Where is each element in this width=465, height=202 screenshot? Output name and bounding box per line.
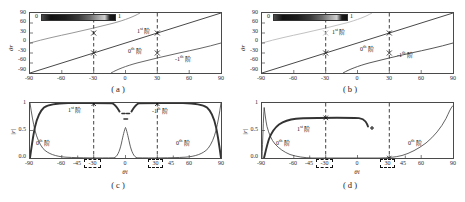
panel-c-curves <box>30 103 221 158</box>
panel-b-xtick-0: 0 <box>348 75 366 81</box>
panel-c-xtick-90: 90 <box>212 160 230 166</box>
order-sup-m1-b: th <box>402 50 405 55</box>
panel-c-label-1st-order: 1st 阶 <box>68 105 81 114</box>
panel-d-xtick-0: 0 <box>348 160 366 166</box>
panel-a-xtick-30: 30 <box>148 75 166 81</box>
panel-b-xtick-m30: -30 <box>316 75 334 81</box>
order-sup-1st-c: st <box>71 105 74 110</box>
panel-c: |r| 1 0.5 0.0 -90 -60 -45 -30 0 30 45 60… <box>0 100 232 202</box>
panel-b-caption: ( b ) <box>328 84 372 94</box>
order-word-0th-d-l: 阶 <box>284 140 290 146</box>
panel-a-xtick-m30: -30 <box>84 75 102 81</box>
panel-b-ytick-m90: -90 <box>240 66 258 72</box>
panel-a-ytick-60: 60 <box>8 18 26 24</box>
colorbar-a-min: 0 <box>35 13 38 19</box>
panel-d-ytick-00: 0.0 <box>242 153 258 159</box>
crossing-markers-d <box>324 116 392 158</box>
order-sup-0th-d-l: th <box>279 138 282 143</box>
panel-d-xtick-m90: -90 <box>252 160 270 166</box>
panel-b-ytick-m30: -30 <box>240 47 258 53</box>
panel-b-ytick-0: 0 <box>240 37 258 43</box>
panel-d-label-0th-order-right: 0th 阶 <box>408 138 422 147</box>
panel-d-xlabel: θi <box>348 168 366 176</box>
panel-d-caption: ( d ) <box>328 180 372 190</box>
panel-b-xtick-m90: -90 <box>252 75 270 81</box>
panel-a-xtick-90: 90 <box>212 75 230 81</box>
panel-c-xtick-45: 45 <box>163 160 179 166</box>
panel-b-curves <box>262 13 453 73</box>
curve-0th-order-c <box>30 103 221 158</box>
panel-a-caption: ( a ) <box>96 84 140 94</box>
panel-a-ytick-m30: -30 <box>8 47 26 53</box>
panel-a-xtick-m60: -60 <box>52 75 70 81</box>
panel-b-ytick-90: 90 <box>240 9 258 15</box>
panel-a-plot-area <box>29 12 222 74</box>
panel-b-label-1st-order: 1st 阶 <box>332 27 345 36</box>
panel-c-label-0th-order-right: 0th 阶 <box>176 138 190 147</box>
panel-b: 0 1 θr 90 60 30 0 -30 -60 -90 -90 -60 -3… <box>232 0 465 101</box>
panel-a-xtick-0: 0 <box>116 75 134 81</box>
panel-a: 0 1 θr 90 60 30 0 -30 -60 -90 -90 -60 -3… <box>0 0 232 101</box>
order-sup-m1-c: th <box>157 106 160 111</box>
panel-d-plot-area <box>261 102 454 159</box>
panel-b-label-minus1st-order: -1th 阶 <box>397 50 413 59</box>
panel-c-plot-area <box>29 102 222 159</box>
order-word-1st-a: 阶 <box>144 28 150 34</box>
panel-a-ytick-0: 0 <box>8 37 26 43</box>
panel-d-ytick-05: 0.5 <box>242 126 258 132</box>
panel-d-label-0th-order-left: 0th 阶 <box>276 138 290 147</box>
colorbar-a <box>41 14 116 21</box>
panel-c-ytick-1: 1 <box>10 99 26 105</box>
panel-b-plot-area <box>261 12 454 74</box>
panel-d-xtick-90: 90 <box>444 160 462 166</box>
order-sup-0th-b: th <box>363 44 366 49</box>
order-word-m1-a: 阶 <box>185 56 191 62</box>
panel-c-xtick-m90: -90 <box>20 160 38 166</box>
panel-c-xtick-30: 30 <box>148 160 163 166</box>
panel-c-label-0th-order-left: 0th 阶 <box>36 138 50 147</box>
panel-a-label-minus1st-order: -1th 阶 <box>175 54 191 63</box>
order-sup-0th-d-r: th <box>411 138 414 143</box>
panel-d: |r| 1 0.5 0.0 -90 -60 -45 -30 0 30 45 60… <box>232 100 465 202</box>
panel-c-xtick-60: 60 <box>180 160 198 166</box>
colorbar-b-min: 0 <box>267 13 270 19</box>
panel-b-xtick-60: 60 <box>412 75 430 81</box>
order-word-0th-d-r: 阶 <box>416 140 422 146</box>
panel-b-xtick-30: 30 <box>380 75 398 81</box>
panel-b-xtick-90: 90 <box>444 75 462 81</box>
panel-c-caption: ( c ) <box>96 180 140 190</box>
curve-minus1st-order-c <box>132 103 222 158</box>
order-word-1st-d: 阶 <box>304 126 310 132</box>
center-notch-dashes-c <box>122 114 130 120</box>
panel-a-curves <box>30 13 221 73</box>
curve-0th-order-d <box>262 106 453 159</box>
panel-a-label-0th-order: 0th 阶 <box>128 46 142 55</box>
order-sup-0th-c-r: th <box>179 138 182 143</box>
colorbar-a-max: 1 <box>118 13 121 19</box>
termination-marker-d <box>370 126 374 130</box>
panel-d-xtick-60: 60 <box>412 160 430 166</box>
panel-c-label-minus1st-order: -1th 阶 <box>152 106 168 115</box>
panel-b-xtick-m60: -60 <box>284 75 302 81</box>
panel-c-ytick-00: 0.0 <box>10 153 26 159</box>
figure-container: 0 1 θr 90 60 30 0 -30 -60 -90 -90 -60 -3… <box>0 0 465 202</box>
order-word-m1-c: 阶 <box>162 108 168 114</box>
panel-b-ytick-60: 60 <box>240 18 258 24</box>
order-word-1st-b: 阶 <box>339 29 345 35</box>
panel-d-xtick-30: 30 <box>380 160 395 166</box>
colorbar-b-max: 1 <box>350 13 353 19</box>
order-sup-1st-b: st <box>335 27 338 32</box>
panel-a-ytick-90: 90 <box>8 9 26 15</box>
panel-a-ytick-m90: -90 <box>8 66 26 72</box>
panel-c-ytick-05: 0.5 <box>10 126 26 132</box>
panel-d-ytick-1: 1 <box>242 99 258 105</box>
panel-a-ytick-30: 30 <box>8 28 26 34</box>
order-sup-0th-c-l: th <box>39 138 42 143</box>
panel-b-ytick-30: 30 <box>240 28 258 34</box>
panel-c-xtick-m30: -30 <box>84 160 101 166</box>
order-word-0th-c-l: 阶 <box>44 140 50 146</box>
order-sup-1st-a: st <box>140 26 143 31</box>
panel-a-xtick-60: 60 <box>180 75 198 81</box>
order-word-0th-a: 阶 <box>136 48 142 54</box>
order-word-m1-b: 阶 <box>407 52 413 58</box>
